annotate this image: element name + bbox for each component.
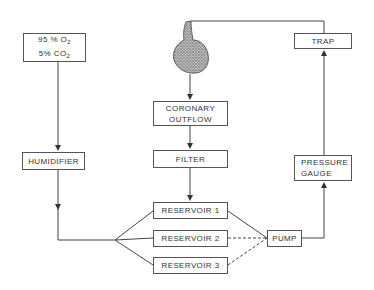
gas-co2-label: 5% CO	[39, 49, 67, 58]
pressure-gauge-box: PRESSURE GAUGE	[294, 155, 352, 181]
split-to-reservoir-1	[115, 211, 153, 240]
pump-label: PUMP	[272, 233, 297, 244]
reservoir-3-box: RESERVOIR 3	[153, 257, 228, 274]
filter-box: FILTER	[153, 150, 228, 168]
reservoir-1-to-pump	[228, 211, 267, 238]
coronary-outflow-line2: OUTFLOW	[169, 114, 212, 125]
reservoir-1-label: RESERVOIR 1	[161, 205, 219, 216]
humidifier-box: HUMIDIFIER	[22, 152, 85, 170]
pressure-gauge-line2: GAUGE	[301, 168, 332, 179]
humidifier-to-split-line	[58, 207, 115, 240]
reservoir-1-box: RESERVOIR 1	[153, 202, 228, 219]
coronary-outflow-box: CORONARY OUTFLOW	[153, 101, 228, 126]
gas-o2-label: 95 % O	[38, 35, 67, 44]
trap-label: TRAP	[312, 36, 335, 47]
pump-box: PUMP	[267, 230, 302, 247]
gas-co2-subscript: 2	[67, 53, 71, 59]
gas-o2-subscript: 2	[67, 39, 71, 45]
filter-label: FILTER	[176, 154, 205, 165]
trap-to-heart-line	[191, 21, 324, 33]
pump-to-gauge-arrow	[302, 185, 324, 238]
humidifier-label: HUMIDIFIER	[28, 156, 79, 167]
trap-box: TRAP	[294, 33, 352, 49]
split-to-reservoir-3	[115, 240, 153, 265]
coronary-outflow-line1: CORONARY	[166, 103, 215, 114]
gas-source-box: 95 % O2 5% CO2	[23, 33, 86, 62]
reservoir-3-label: RESERVOIR 3	[161, 260, 219, 271]
heart-icon	[173, 21, 208, 73]
pressure-gauge-line1: PRESSURE	[301, 157, 348, 168]
reservoir-2-box: RESERVOIR 2	[153, 230, 228, 247]
split-to-reservoir-2	[115, 238, 153, 240]
reservoir-2-label: RESERVOIR 2	[161, 233, 219, 244]
reservoir-3-to-pump	[228, 238, 267, 265]
